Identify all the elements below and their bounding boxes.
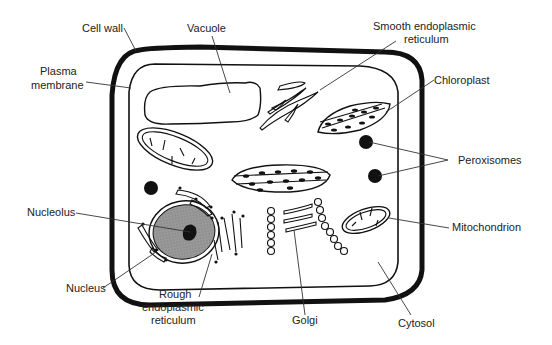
label-rough-er-3: reticulum (151, 314, 196, 326)
label-smooth-er-2: reticulum (404, 33, 449, 45)
label-nucleus: Nucleus (66, 282, 106, 294)
chloroplast-center (232, 165, 330, 192)
label-cell-wall: Cell wall (82, 22, 123, 34)
label-vacuole: Vacuole (187, 22, 226, 34)
label-golgi: Golgi (292, 314, 318, 326)
chloroplast-upper (318, 102, 390, 133)
label-chloroplast: Chloroplast (434, 74, 490, 86)
label-mitochondrion: Mitochondrion (452, 221, 521, 233)
label-smooth-er-1: Smooth endoplasmic (373, 20, 476, 32)
label-rough-er-2: endoplasmic (142, 301, 204, 313)
label-plasma-membrane-1: Plasma (40, 65, 78, 77)
peroxisome-3 (144, 181, 158, 195)
label-cytosol: Cytosol (398, 317, 435, 329)
golgi (268, 199, 348, 255)
label-peroxisomes: Peroxisomes (458, 154, 522, 166)
vacuole (145, 82, 261, 124)
mitochondrion-left (132, 119, 218, 179)
mitochondrion-right (339, 201, 394, 239)
label-rough-er-1: Rough (159, 288, 191, 300)
label-plasma-membrane-2: membrane (31, 79, 84, 91)
smooth-er (260, 82, 318, 130)
label-nucleolus: Nucleolus (27, 206, 76, 218)
plant-cell-diagram: Cell wall Vacuole Smooth endoplasmic ret… (0, 0, 552, 345)
